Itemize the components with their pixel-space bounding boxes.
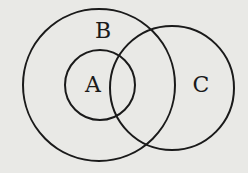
label-c: C	[193, 72, 210, 97]
circle-c	[110, 26, 234, 150]
label-a: A	[84, 72, 102, 97]
venn-diagram: B A C	[0, 0, 248, 173]
label-b: B	[95, 18, 111, 43]
